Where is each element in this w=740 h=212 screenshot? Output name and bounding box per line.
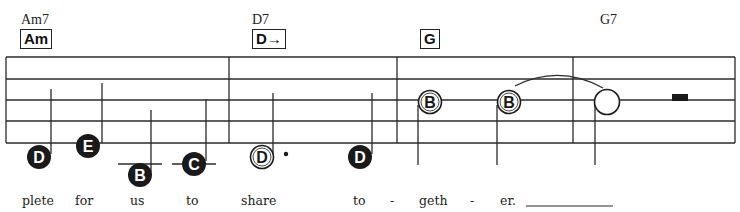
svg-text:B: B bbox=[134, 167, 146, 184]
svg-text:E: E bbox=[83, 138, 94, 155]
lyric-syllable: us bbox=[130, 193, 144, 208]
svg-text:B: B bbox=[424, 94, 436, 111]
augmentation-dot bbox=[284, 152, 288, 156]
lyric-syllable: for bbox=[75, 193, 93, 208]
svg-text:B: B bbox=[503, 94, 515, 111]
lyric-syllable: to bbox=[353, 193, 366, 208]
note-d-filled-2: D bbox=[348, 145, 372, 169]
note-d-filled-1: D bbox=[27, 145, 51, 169]
lyric-syllable: to bbox=[186, 193, 199, 208]
lyric-syllable: share bbox=[241, 193, 276, 208]
svg-text:D: D bbox=[256, 149, 268, 166]
lyric-syllable: geth bbox=[419, 193, 447, 208]
note-b-filled: B bbox=[128, 163, 152, 187]
note-d-open-dotted: D bbox=[251, 146, 289, 169]
svg-text:D: D bbox=[33, 149, 45, 166]
svg-text:D: D bbox=[354, 149, 366, 166]
lyric-syllable: er. bbox=[500, 193, 516, 208]
lyric-hyphen: - bbox=[470, 193, 474, 208]
note-b-open-2: B bbox=[498, 91, 521, 114]
staff-lines bbox=[6, 57, 735, 143]
svg-text:C: C bbox=[188, 156, 200, 173]
note-e-filled: E bbox=[76, 134, 100, 158]
staff: D E B C D D B bbox=[0, 0, 740, 212]
lyric-hyphen: - bbox=[390, 193, 394, 208]
half-rest-icon bbox=[672, 94, 688, 101]
note-open-tied bbox=[595, 90, 620, 115]
note-c-filled: C bbox=[182, 152, 206, 176]
note-b-open-1: B bbox=[419, 91, 442, 114]
tie-arc bbox=[515, 75, 603, 88]
lyric-syllable: plete bbox=[22, 193, 54, 208]
